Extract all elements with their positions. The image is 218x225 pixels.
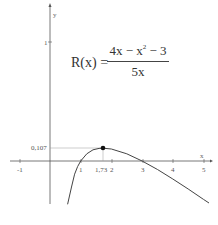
function-curve bbox=[68, 148, 209, 204]
y-tick-label-0107: 0,107 bbox=[31, 144, 47, 152]
x-tick-label-3: 3 bbox=[141, 166, 145, 174]
y-axis-label: y bbox=[53, 11, 57, 19]
x-tick-label-1: 1 bbox=[79, 166, 83, 174]
maximum-point bbox=[101, 146, 106, 151]
y-tick-label-1: 1 bbox=[44, 39, 48, 47]
x-tick-label-4: 4 bbox=[171, 166, 175, 174]
x-tick-label-5: 5 bbox=[202, 166, 206, 174]
x-tick-label-neg1: -1 bbox=[17, 166, 23, 174]
formula-numerator: 4x − x2 − 3 bbox=[107, 43, 169, 59]
y-axis-arrow-icon bbox=[49, 3, 52, 7]
function-graph: -1 1 1,73 2 3 4 5 1 0,107 x y bbox=[0, 0, 218, 225]
formula-lhs: R(x) = bbox=[71, 55, 108, 71]
x-axis-arrow-icon bbox=[210, 160, 213, 163]
fraction-bar bbox=[107, 61, 169, 62]
x-tick-label-173: 1,73 bbox=[95, 166, 108, 174]
x-tick-label-2: 2 bbox=[110, 166, 114, 174]
function-formula: R(x) = 4x − x2 − 3 5x bbox=[71, 43, 171, 83]
x-axis-label: x bbox=[200, 152, 204, 160]
formula-denominator: 5x bbox=[107, 64, 169, 80]
